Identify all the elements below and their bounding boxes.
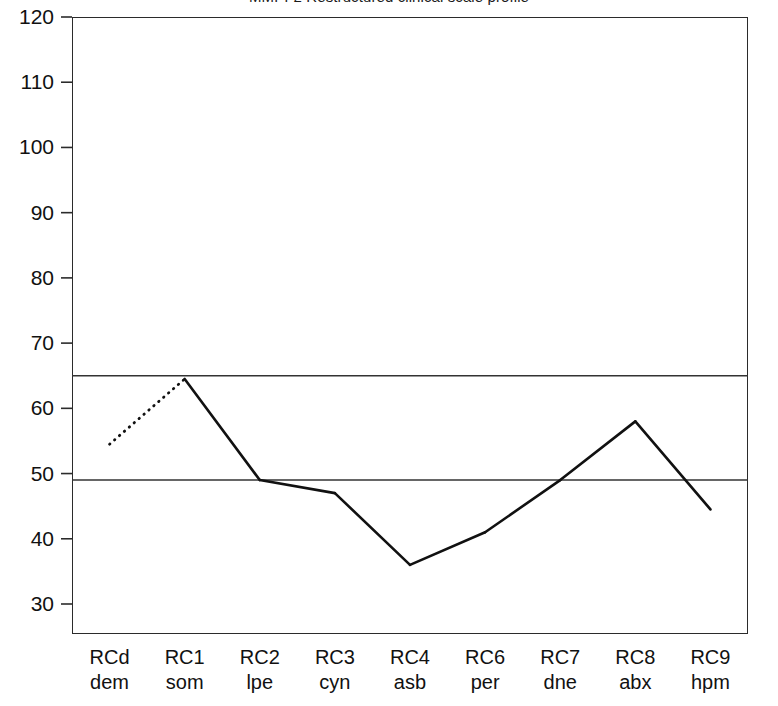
- y-tick-label: 110: [0, 71, 54, 92]
- x-category-abbr: som: [147, 670, 222, 695]
- x-category-abbr: per: [448, 670, 523, 695]
- x-category-abbr: asb: [372, 670, 447, 695]
- data-series: [110, 379, 711, 565]
- x-category-code: RC8: [598, 645, 673, 670]
- x-category-code: RC7: [523, 645, 598, 670]
- x-category-abbr: hpm: [673, 670, 748, 695]
- y-tick-label: 30: [0, 593, 54, 614]
- x-category-abbr: dem: [72, 670, 147, 695]
- y-tick-label: 120: [0, 6, 54, 27]
- x-category-code: RC4: [372, 645, 447, 670]
- x-category-label: RC8abx: [598, 645, 673, 695]
- x-category-abbr: abx: [598, 670, 673, 695]
- x-category-abbr: lpe: [222, 670, 297, 695]
- series-segment: [335, 493, 410, 565]
- series-segment: [185, 379, 260, 480]
- x-category-label: RC7dne: [523, 645, 598, 695]
- x-category-code: RC9: [673, 645, 748, 670]
- series-segment: [410, 532, 485, 565]
- y-tick-label: 60: [0, 397, 54, 418]
- series-segment: [560, 421, 635, 480]
- x-category-label: RC2lpe: [222, 645, 297, 695]
- x-category-label: RC4asb: [372, 645, 447, 695]
- x-category-label: RCddem: [72, 645, 147, 695]
- y-tick-label: 40: [0, 528, 54, 549]
- x-category-code: RC3: [297, 645, 372, 670]
- y-tick-label: 80: [0, 267, 54, 288]
- series-segment: [260, 480, 335, 493]
- x-category-code: RC2: [222, 645, 297, 670]
- x-category-label: RC9hpm: [673, 645, 748, 695]
- x-category-code: RC1: [147, 645, 222, 670]
- series-segment: [485, 480, 560, 532]
- x-category-abbr: dne: [523, 670, 598, 695]
- series-segment: [635, 421, 710, 509]
- y-tick-label: 50: [0, 463, 54, 484]
- y-tick-label: 100: [0, 136, 54, 157]
- x-category-label: RC6per: [448, 645, 523, 695]
- x-category-code: RCd: [72, 645, 147, 670]
- chart-canvas: [0, 0, 778, 706]
- y-axis-ticks: [61, 17, 72, 604]
- x-category-code: RC6: [448, 645, 523, 670]
- x-category-abbr: cyn: [297, 670, 372, 695]
- x-category-label: RC3cyn: [297, 645, 372, 695]
- y-tick-label: 90: [0, 202, 54, 223]
- chart-figure: MMPI-2 Restructured clinical scale profi…: [0, 0, 778, 706]
- y-tick-label: 70: [0, 332, 54, 353]
- x-category-label: RC1som: [147, 645, 222, 695]
- series-segment: [110, 379, 185, 444]
- reference-lines: [72, 376, 748, 480]
